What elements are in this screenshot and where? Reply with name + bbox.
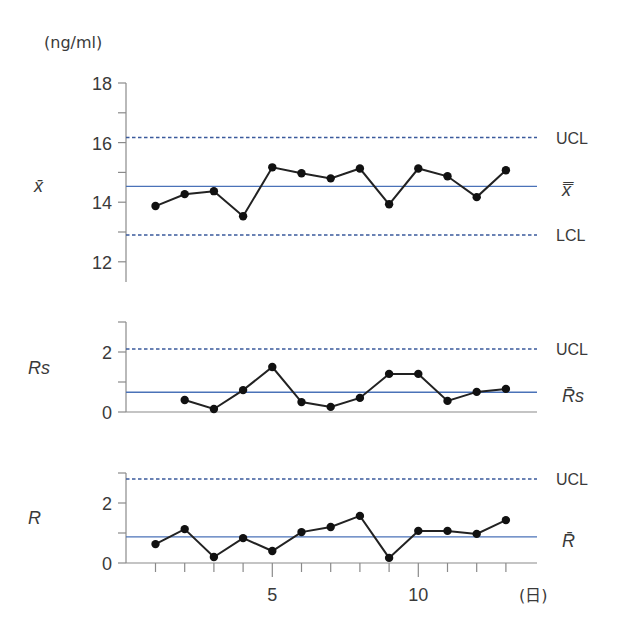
r-data-point [502,516,510,524]
rs-center-label: R̄s [562,386,584,406]
r-data-point [210,553,218,561]
rs-ucl-label: UCL [556,341,588,358]
xbar-data-point [414,164,422,172]
rs-data-point [297,398,305,406]
x-tick-label: 5 [267,585,277,605]
xbar-data-point [151,202,159,210]
x-unit-label: (日) [519,586,547,605]
xbar-data-point [297,169,305,177]
rs-y-tick-label: 0 [102,403,112,423]
xbar-data-point [443,172,451,180]
r-ucl-label: UCL [556,471,588,488]
rs-data-point [414,370,422,378]
xbar-y-tick-label: 12 [92,253,112,273]
xbar-y-tick-label: 14 [92,193,112,213]
xbar-data-point [210,187,218,195]
xbar-center-label: x̿ [561,180,574,200]
xbar-data-point [473,193,481,201]
rs-data-point [239,386,247,394]
r-y-tick-label: 2 [102,494,112,514]
r-data-point [443,527,451,535]
r-data-point [181,525,189,533]
xbar-data-point [268,163,276,171]
xbar-data-point [356,164,364,172]
r-data-point [297,528,305,536]
r-data-point [356,512,364,520]
rs-chart-label: Rs [28,358,50,378]
xbar-data-point [327,174,335,182]
rs-data-line [185,367,506,409]
rs-data-point [210,405,218,413]
x-tick-label: 10 [408,585,428,605]
rs-data-point [356,394,364,402]
rs-data-point [443,397,451,405]
rs-data-point [502,385,510,393]
xbar-data-point [385,200,393,208]
control-charts: 12141618UCLLCLx̿x̄02UCLR̄sRs02UCLR̄R510(… [0,0,624,637]
r-chart-label: R [28,508,41,528]
r-y-tick-label: 0 [102,554,112,574]
r-data-point [327,523,335,531]
rs-data-point [181,396,189,404]
r-data-point [414,527,422,535]
xbar-lcl-label: LCL [556,227,585,244]
xbar-chart-label: x̄ [33,176,44,196]
rs-data-point [473,388,481,396]
xbar-ucl-label: UCL [556,130,588,147]
rs-data-point [385,370,393,378]
r-center-label: R̄ [562,531,575,551]
r-data-point [268,547,276,555]
rs-y-tick-label: 2 [102,343,112,363]
y-unit-label: (ng/ml) [44,33,102,52]
r-data-point [239,534,247,542]
r-data-point [151,540,159,548]
r-data-point [473,530,481,538]
xbar-data-point [502,166,510,174]
xbar-data-point [239,212,247,220]
rs-data-point [327,403,335,411]
rs-data-point [268,363,276,371]
xbar-data-point [181,190,189,198]
xbar-y-tick-label: 16 [92,134,112,154]
xbar-y-tick-label: 18 [92,74,112,94]
r-data-point [385,554,393,562]
